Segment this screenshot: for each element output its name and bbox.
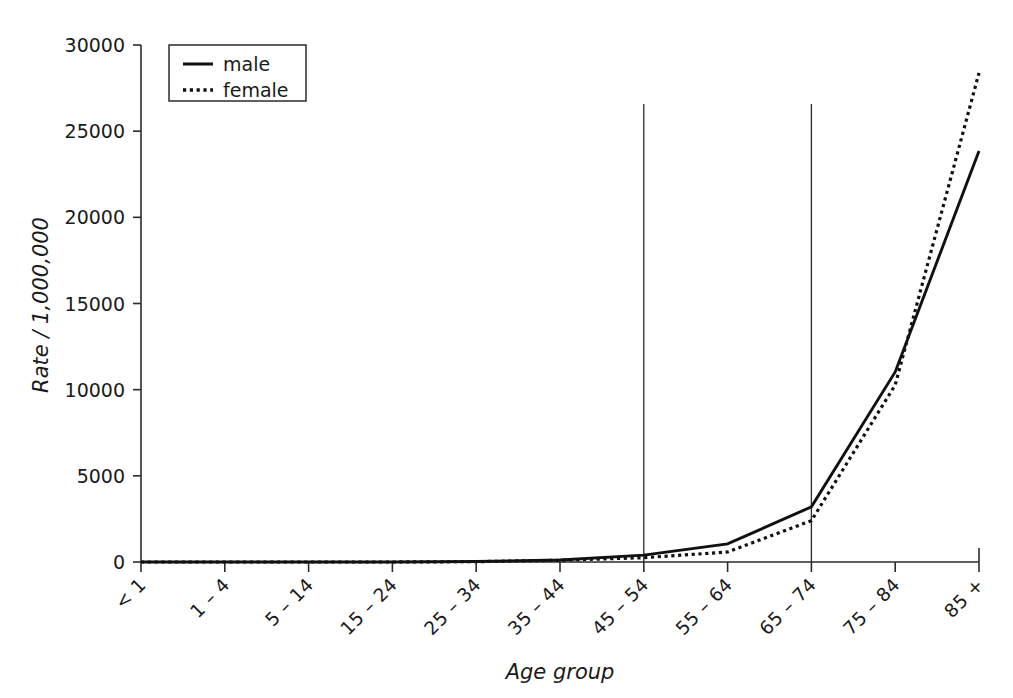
chart-background [0,0,1013,698]
y-tick-label: 0 [113,551,125,573]
chart-figure: 050001000015000200002500030000 < 11 – 45… [0,0,1013,698]
y-axis-title: Rate / 1,000,000 [29,217,53,393]
line-chart: 050001000015000200002500030000 < 11 – 45… [0,0,1013,698]
y-tick-label: 20000 [65,206,125,228]
y-tick-label: 30000 [65,34,125,56]
legend-label-male: male [223,53,270,75]
y-tick-label: 10000 [65,379,125,401]
y-tick-label: 25000 [65,120,125,142]
chart-legend: malefemale [169,45,306,101]
y-tick-label: 15000 [65,293,125,315]
y-tick-label: 5000 [77,465,125,487]
legend-label-female: female [223,79,289,101]
x-axis-title: Age group [504,660,615,684]
